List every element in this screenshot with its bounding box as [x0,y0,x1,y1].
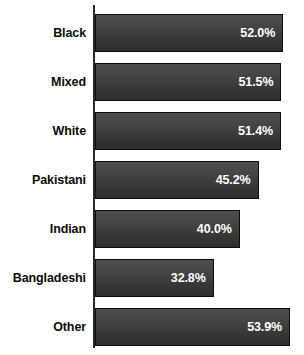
bar-row: Other53.9% [0,302,304,351]
bar-container: 51.4% [95,112,281,150]
bar-value-label: 40.0% [197,222,239,236]
bar-value-label: 52.0% [240,26,282,40]
category-label: Bangladeshi [0,271,86,285]
bar: 32.8% [95,259,214,297]
bar-row: Indian40.0% [0,204,304,253]
bar-row: Pakistani45.2% [0,155,304,204]
bar: 45.2% [95,161,259,199]
bar: 52.0% [95,14,283,52]
bar-value-label: 32.8% [171,271,213,285]
category-label: Other [0,320,86,334]
bar-container: 32.8% [95,259,214,297]
bar-row: Black52.0% [0,8,304,57]
bar-container: 51.5% [95,63,281,101]
category-label: Indian [0,222,86,236]
bar-value-label: 45.2% [216,173,258,187]
bar-value-label: 51.5% [238,75,280,89]
bar: 51.4% [95,112,281,150]
bar-chart: Black52.0%Mixed51.5%White51.4%Pakistani4… [0,0,304,355]
bar: 51.5% [95,63,281,101]
bar-value-label: 53.9% [247,320,289,334]
bar: 53.9% [95,308,290,346]
bar-container: 45.2% [95,161,259,199]
category-label: Pakistani [0,173,86,187]
bar-container: 53.9% [95,308,290,346]
category-label: Mixed [0,75,86,89]
category-label: Black [0,26,86,40]
bar-container: 52.0% [95,14,283,52]
bar-row: White51.4% [0,106,304,155]
category-label: White [0,124,86,138]
bar-row: Mixed51.5% [0,57,304,106]
bar-container: 40.0% [95,210,240,248]
bar: 40.0% [95,210,240,248]
bar-value-label: 51.4% [238,124,280,138]
bar-row: Bangladeshi32.8% [0,253,304,302]
